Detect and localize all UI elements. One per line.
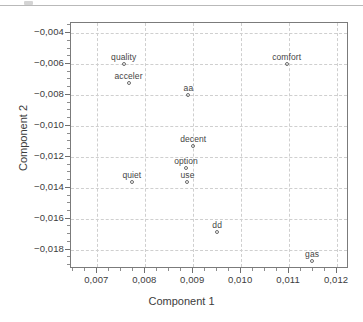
data-point-label: dd [212,220,222,230]
y-tick-minor [67,117,70,118]
data-point-marker [185,180,189,184]
data-point-marker [127,81,131,85]
gridline-horizontal [71,188,347,189]
y-tick-minor [67,78,70,79]
data-point-marker [310,259,314,263]
y-axis-title: Component 2 [17,68,29,208]
y-tick-label: −0,010 [34,119,64,130]
x-tick-minor [228,268,229,271]
x-tick-major [192,268,193,273]
y-tick-minor [67,179,70,180]
x-tick-label: 0,007 [84,274,108,285]
y-tick-minor [67,202,70,203]
gridline-horizontal [71,126,347,127]
gridline-vertical [241,23,242,267]
scatter-plot-figure: qualityaccelercomfortaadecentoptionusequ… [0,0,363,322]
y-tick-major [65,187,70,188]
x-tick-minor [324,268,325,271]
gridline-vertical [97,23,98,267]
gridline-horizontal [71,64,347,65]
y-tick-minor [67,241,70,242]
y-tick-label: −0,018 [34,243,64,254]
gridline-horizontal [71,219,347,220]
data-point-label: decent [180,134,206,144]
y-tick-major [65,249,70,250]
y-tick-label: −0,008 [34,88,64,99]
y-tick-minor [67,86,70,87]
data-point-label: acceler [114,71,142,81]
y-tick-major [65,218,70,219]
gridline-horizontal [71,157,347,158]
y-tick-minor [67,164,70,165]
y-tick-label: −0,012 [34,150,64,161]
y-tick-minor [67,24,70,25]
y-tick-minor [67,210,70,211]
x-tick-minor [312,268,313,271]
data-point-marker [191,144,195,148]
gridline-vertical [145,23,146,267]
data-point-marker [285,62,289,66]
y-tick-minor [67,40,70,41]
data-point-label: aa [184,83,194,93]
y-tick-major [65,125,70,126]
data-point-marker [186,93,190,97]
x-tick-minor [204,268,205,271]
x-tick-minor [156,268,157,271]
plot-area: qualityaccelercomfortaadecentoptionusequ… [70,22,348,268]
y-tick-minor [67,195,70,196]
x-tick-label: 0,010 [228,274,252,285]
x-tick-major [96,268,97,273]
x-tick-minor [180,268,181,271]
x-axis-title: Component 1 [0,295,363,307]
data-point-label: option [174,156,198,166]
y-tick-major [65,94,70,95]
data-point-marker [184,166,188,170]
y-tick-label: −0,006 [34,57,64,68]
y-tick-minor [67,140,70,141]
x-tick-label: 0,008 [132,274,156,285]
gridline-horizontal [71,95,347,96]
y-tick-minor [67,71,70,72]
x-tick-minor [132,268,133,271]
x-tick-minor [252,268,253,271]
x-tick-minor [72,268,73,271]
x-tick-minor [168,268,169,271]
data-point-marker [130,180,134,184]
data-point-label: use [180,170,194,180]
y-tick-major [65,156,70,157]
x-tick-minor [84,268,85,271]
y-tick-minor [67,48,70,49]
data-point-label: gas [305,249,319,259]
x-tick-major [240,268,241,273]
x-tick-minor [264,268,265,271]
y-tick-major [65,63,70,64]
x-tick-major [144,268,145,273]
x-tick-minor [120,268,121,271]
data-point-label: quiet [122,170,141,180]
x-tick-minor [300,268,301,271]
x-tick-minor [276,268,277,271]
y-tick-minor [67,264,70,265]
x-tick-label: 0,011 [276,274,300,285]
x-tick-major [336,268,337,273]
gridline-horizontal [71,33,347,34]
data-point-marker [122,62,126,66]
y-tick-minor [67,148,70,149]
y-tick-minor [67,109,70,110]
y-tick-label: −0,014 [34,181,64,192]
y-tick-minor [67,133,70,134]
y-tick-minor [67,225,70,226]
x-tick-major [288,268,289,273]
x-tick-minor [216,268,217,271]
y-tick-label: −0,016 [34,212,64,223]
y-tick-minor [67,55,70,56]
gridline-vertical [337,23,338,267]
x-tick-label: 0,009 [180,274,204,285]
y-tick-label: −0,004 [34,26,64,37]
y-tick-major [65,32,70,33]
data-point-label: comfort [272,52,301,62]
y-tick-minor [67,233,70,234]
y-tick-minor [67,102,70,103]
y-tick-minor [67,171,70,172]
y-tick-minor [67,256,70,257]
